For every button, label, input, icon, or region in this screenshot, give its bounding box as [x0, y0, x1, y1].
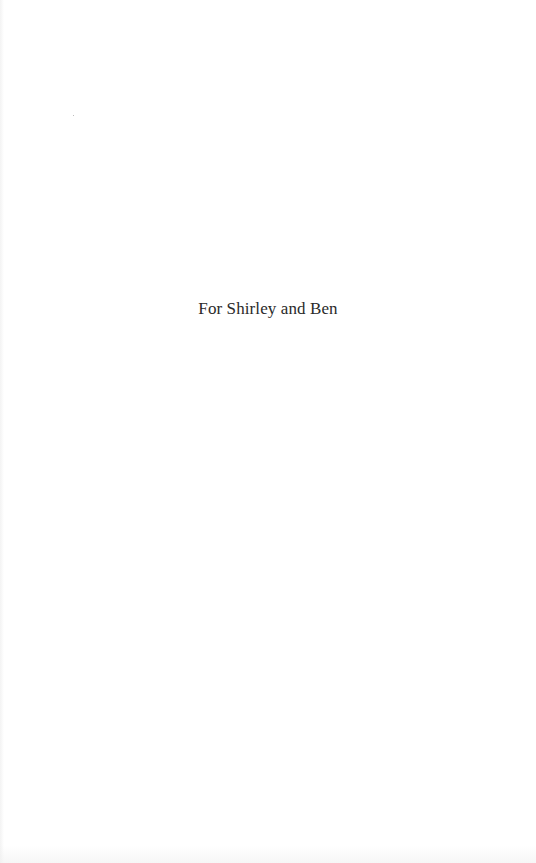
dedication-page: For Shirley and Ben [0, 0, 536, 863]
dedication-text: For Shirley and Ben [0, 299, 536, 319]
scan-edge-shadow [0, 0, 4, 863]
scan-bottom-noise [0, 845, 536, 863]
scan-speck [73, 115, 74, 116]
